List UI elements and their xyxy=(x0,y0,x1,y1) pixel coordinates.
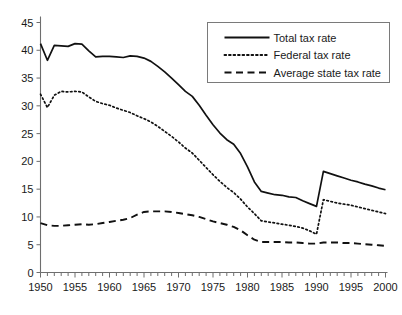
x-axis-tick-label: 1960 xyxy=(97,281,121,293)
x-axis-tick-label: 1980 xyxy=(235,281,259,293)
chart-canvas: 051015202530354045 195019551960196519701… xyxy=(0,0,402,315)
x-axis: 1950195519601965197019751980198519901995… xyxy=(28,273,397,293)
y-axis-tick-label: 30 xyxy=(21,100,33,112)
y-axis-tick-label: 10 xyxy=(21,211,33,223)
x-axis-tick-label: 1985 xyxy=(270,281,294,293)
legend-label: Federal tax rate xyxy=(274,49,351,61)
legend-label: Total tax rate xyxy=(274,32,337,44)
y-axis-tick-label: 25 xyxy=(21,128,33,140)
legend-label: Average state tax rate xyxy=(274,67,381,79)
chart-legend: Total tax rateFederal tax rateAverage st… xyxy=(208,23,390,83)
series-line-federal xyxy=(41,91,386,234)
y-axis-tick-label: 5 xyxy=(27,239,33,251)
y-axis-tick-label: 45 xyxy=(21,17,33,29)
x-axis-tick-label: 2000 xyxy=(373,281,397,293)
y-axis-tick-label: 0 xyxy=(27,267,33,279)
y-axis-tick-label: 40 xyxy=(21,44,33,56)
tax-rate-line-chart: 051015202530354045 195019551960196519701… xyxy=(0,0,402,315)
x-axis-tick-label: 1990 xyxy=(304,281,328,293)
y-axis: 051015202530354045 xyxy=(21,17,40,279)
x-axis-tick-label: 1950 xyxy=(28,281,52,293)
x-axis-tick-label: 1965 xyxy=(132,281,156,293)
x-axis-tick-label: 1975 xyxy=(201,281,225,293)
series-line-average-state xyxy=(41,211,386,245)
x-axis-tick-label: 1995 xyxy=(339,281,363,293)
y-axis-tick-label: 35 xyxy=(21,72,33,84)
y-axis-tick-label: 20 xyxy=(21,155,33,167)
x-axis-tick-label: 1970 xyxy=(166,281,190,293)
x-axis-tick-label: 1955 xyxy=(63,281,87,293)
y-axis-tick-label: 15 xyxy=(21,183,33,195)
